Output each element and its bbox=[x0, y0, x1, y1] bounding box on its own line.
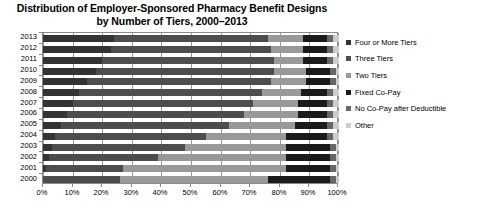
legend-swatch-icon bbox=[346, 40, 351, 45]
bar-segment bbox=[336, 78, 339, 85]
legend-item-label: Fixed Co-Pay bbox=[355, 88, 400, 97]
stacked-bar bbox=[43, 111, 339, 118]
chart-legend: Four or More TiersThree TiersTwo TiersFi… bbox=[346, 34, 478, 134]
y-axis-labels: 2013201220112010200920082007200620052004… bbox=[0, 32, 40, 184]
stacked-bar bbox=[43, 100, 339, 107]
bar-segment bbox=[306, 78, 330, 85]
bar-segment bbox=[268, 176, 330, 183]
bar-segment bbox=[123, 165, 286, 172]
bar-segment bbox=[244, 111, 298, 118]
bar-segment bbox=[43, 57, 102, 64]
stacked-bar bbox=[43, 35, 339, 42]
bar-segment bbox=[43, 111, 67, 118]
bar-segment bbox=[46, 165, 123, 172]
legend-swatch-icon bbox=[346, 90, 351, 95]
chart-title-line-2: by Number of Tiers, 2000–2013 bbox=[6, 15, 338, 28]
bar-segment bbox=[333, 122, 339, 129]
bar-row bbox=[43, 144, 337, 151]
x-axis-tick bbox=[72, 184, 73, 187]
bar-row bbox=[43, 35, 337, 42]
y-axis-tick-label: 2009 bbox=[20, 77, 37, 85]
bar-segment bbox=[336, 68, 339, 75]
bar-segment bbox=[303, 46, 327, 53]
bar-segment bbox=[43, 133, 55, 140]
legend-item[interactable]: Fixed Co-Pay bbox=[346, 84, 478, 101]
chart-title-line-1: Distribution of Employer-Sponsored Pharm… bbox=[6, 2, 338, 15]
bar-segment bbox=[43, 35, 114, 42]
y-axis-tick-label: 2010 bbox=[20, 66, 37, 74]
legend-swatch-icon bbox=[346, 73, 351, 78]
bar-segment bbox=[336, 144, 339, 151]
bar-row bbox=[43, 78, 337, 85]
bar-segment bbox=[336, 154, 339, 161]
bar-segment bbox=[333, 100, 339, 107]
bar-segment bbox=[111, 46, 271, 53]
bar-segment bbox=[274, 68, 306, 75]
bar-segment bbox=[262, 89, 301, 96]
legend-item[interactable]: No Co-Pay after Deductible bbox=[346, 100, 478, 117]
bar-segment bbox=[336, 165, 339, 172]
bar-segment bbox=[43, 122, 61, 129]
bar-segment bbox=[286, 133, 327, 140]
bar-segment bbox=[333, 57, 339, 64]
legend-item-label: Three Tiers bbox=[355, 54, 393, 63]
legend-item[interactable]: Other bbox=[346, 117, 478, 134]
legend-item[interactable]: Three Tiers bbox=[346, 51, 478, 68]
bar-segment bbox=[295, 122, 327, 129]
stacked-bar bbox=[43, 176, 339, 183]
bar-row bbox=[43, 68, 337, 75]
bar-row bbox=[43, 176, 337, 183]
bar-segment bbox=[87, 78, 271, 85]
chart-figure: Distribution of Employer-Sponsored Pharm… bbox=[0, 0, 478, 218]
bar-segment bbox=[43, 68, 96, 75]
legend-item-label: No Co-Pay after Deductible bbox=[355, 104, 446, 113]
y-axis-tick-label: 2002 bbox=[20, 153, 37, 161]
bar-segment bbox=[333, 111, 339, 118]
stacked-bar bbox=[43, 89, 339, 96]
bar-segment bbox=[96, 68, 274, 75]
bar-segment bbox=[286, 154, 330, 161]
legend-swatch-icon bbox=[346, 56, 351, 61]
legend-item[interactable]: Four or More Tiers bbox=[346, 34, 478, 51]
bar-segment bbox=[67, 111, 244, 118]
bar-row bbox=[43, 111, 337, 118]
stacked-bar bbox=[43, 144, 339, 151]
bar-segment bbox=[306, 68, 330, 75]
stacked-bar bbox=[43, 57, 339, 64]
legend-swatch-icon bbox=[346, 123, 351, 128]
bar-segment bbox=[185, 144, 286, 151]
bar-segment bbox=[286, 165, 330, 172]
y-axis-tick-label: 2005 bbox=[20, 120, 37, 128]
y-axis-tick-label: 2012 bbox=[20, 44, 37, 52]
bar-segment bbox=[61, 122, 229, 129]
stacked-bar bbox=[43, 68, 339, 75]
x-axis-labels: 0%10%20%30%40%50%60%70%80%90%100% bbox=[0, 188, 478, 200]
stacked-bar bbox=[43, 46, 339, 53]
bar-segment bbox=[43, 144, 52, 151]
x-axis-tick bbox=[131, 184, 132, 187]
x-axis-tick-label: 100% bbox=[317, 188, 357, 197]
bar-segment bbox=[55, 133, 206, 140]
y-axis-tick-label: 2011 bbox=[21, 55, 37, 63]
stacked-bar bbox=[43, 133, 339, 140]
bar-segment bbox=[333, 133, 339, 140]
x-axis-tick bbox=[42, 184, 43, 187]
x-axis-tick bbox=[337, 184, 338, 187]
bar-segment bbox=[253, 100, 298, 107]
bar-segment bbox=[206, 133, 286, 140]
bar-segment bbox=[268, 35, 303, 42]
y-axis-tick-label: 2008 bbox=[20, 88, 37, 96]
y-axis-tick-label: 2004 bbox=[20, 131, 37, 139]
legend-item-label: Two Tiers bbox=[355, 71, 387, 80]
y-axis-tick-label: 2001 bbox=[20, 164, 37, 172]
bar-row bbox=[43, 57, 337, 64]
bar-segment bbox=[333, 89, 339, 96]
legend-swatch-icon bbox=[346, 106, 351, 111]
legend-item[interactable]: Two Tiers bbox=[346, 67, 478, 84]
x-axis-tick bbox=[279, 184, 280, 187]
bar-segment bbox=[229, 122, 295, 129]
x-axis-tick bbox=[249, 184, 250, 187]
bar-segment bbox=[303, 35, 327, 42]
bar-row bbox=[43, 154, 337, 161]
bar-segment bbox=[43, 100, 73, 107]
